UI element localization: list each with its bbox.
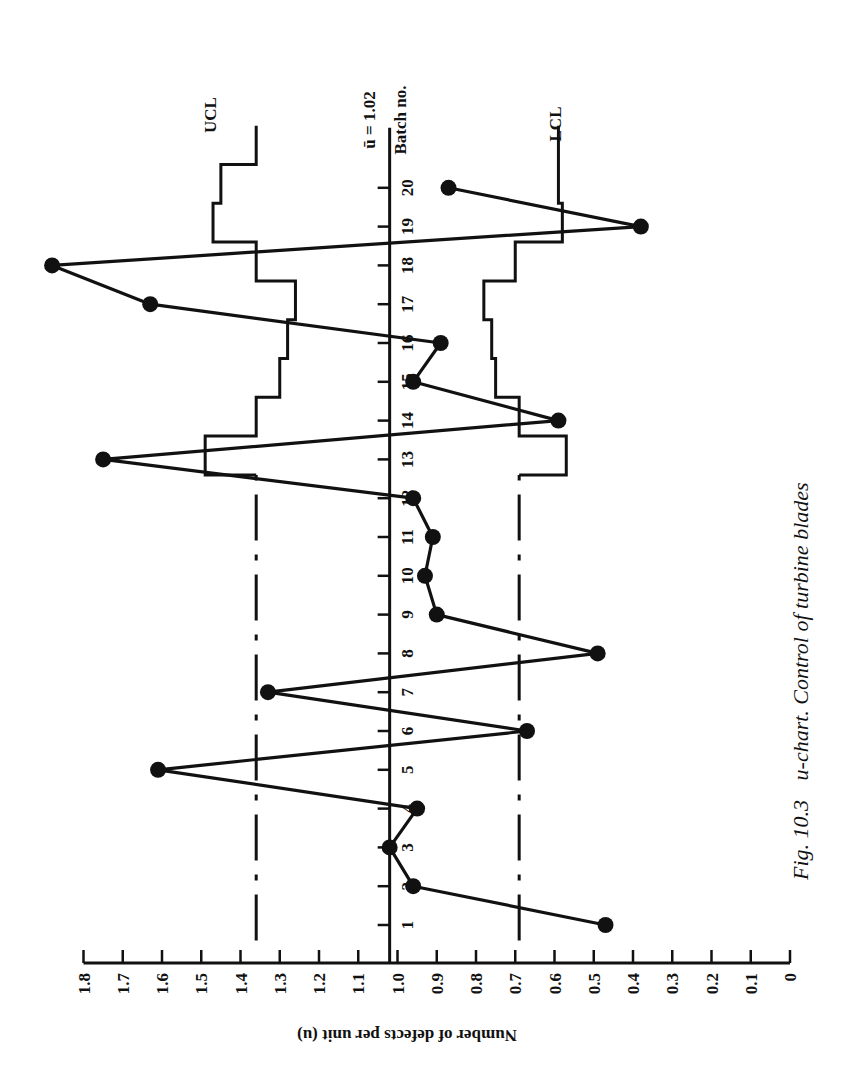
- centerline-label: ū = 1.02: [360, 91, 379, 148]
- value-tick-label: 1.1: [349, 973, 368, 994]
- batch-axis-title: Batch no.: [391, 86, 410, 155]
- data-point: [382, 839, 398, 855]
- data-point: [598, 917, 614, 933]
- u-series-line: [52, 188, 641, 925]
- batch-tick-label: 13: [398, 451, 417, 468]
- data-point: [429, 607, 445, 623]
- figure-title: u-chart. Control of turbine blades: [788, 482, 813, 780]
- value-tick-label: 1.0: [389, 973, 408, 994]
- batch-tick-label: 7: [398, 687, 417, 696]
- value-tick-label: 1.5: [192, 973, 211, 994]
- data-point: [260, 684, 276, 700]
- data-point: [409, 801, 425, 817]
- value-axis: 00.10.20.30.40.50.60.70.80.91.01.11.21.3…: [75, 950, 801, 994]
- batch-tick-label: 6: [398, 727, 417, 736]
- value-tick-label: 1.4: [232, 973, 251, 995]
- figure-label: Fig. 10.3: [788, 800, 813, 881]
- batch-tick-label: 3: [398, 843, 417, 852]
- value-tick-label: 0.6: [546, 973, 565, 994]
- figure-caption: Fig. 10.3 u-chart. Control of turbine bl…: [788, 482, 813, 881]
- data-point: [95, 451, 111, 467]
- data-point: [433, 335, 449, 351]
- data-point: [441, 180, 457, 196]
- value-tick-label: 0.2: [703, 973, 722, 994]
- data-point: [425, 529, 441, 545]
- data-point: [44, 257, 60, 273]
- batch-tick-label: 14: [398, 412, 417, 430]
- batch-tick-label: 10: [398, 567, 417, 584]
- value-tick-label: 0.7: [506, 973, 525, 995]
- ucl-step-line: [205, 126, 295, 475]
- u-chart: 00.10.20.30.40.50.60.70.80.91.01.11.21.3…: [0, 0, 859, 1090]
- batch-tick-label: 9: [398, 610, 417, 619]
- batch-tick-label: 20: [398, 179, 417, 196]
- batch-tick-label: 1: [398, 921, 417, 930]
- value-tick-label: 1.2: [310, 973, 329, 994]
- value-tick-label: 0.3: [663, 973, 682, 994]
- svg-text:Fig. 10.3 u-chart. Contr: Fig. 10.3 u-chart. Control of turbine bl…: [788, 482, 813, 881]
- data-point: [417, 568, 433, 584]
- value-tick-label: 1.6: [153, 973, 172, 994]
- data-point: [519, 723, 535, 739]
- value-tick-label: 1.3: [271, 973, 290, 994]
- data-point: [150, 762, 166, 778]
- batch-tick-label: 8: [398, 649, 417, 658]
- lcl-label: LCL: [546, 107, 565, 142]
- data-series: [44, 180, 649, 933]
- value-tick-label: 1.8: [75, 973, 94, 994]
- data-point: [590, 645, 606, 661]
- batch-tick-label: 18: [398, 257, 417, 274]
- batch-tick-label: 11: [398, 529, 417, 545]
- control-limits: [205, 126, 566, 941]
- data-point: [405, 490, 421, 506]
- value-tick-label: 0.9: [428, 973, 447, 994]
- data-point: [550, 413, 566, 429]
- batch-tick-label: 5: [398, 766, 417, 775]
- data-point: [633, 219, 649, 235]
- value-tick-label: 0.5: [585, 973, 604, 994]
- value-tick-label: 0.1: [742, 973, 761, 994]
- data-point: [405, 374, 421, 390]
- data-point: [142, 296, 158, 312]
- value-tick-label: 0.8: [467, 973, 486, 994]
- batch-tick-label: 19: [398, 218, 417, 235]
- batch-tick-label: 17: [398, 295, 417, 313]
- value-tick-label: 0.4: [624, 973, 643, 995]
- value-tick-label: 1.7: [114, 973, 133, 995]
- ucl-label: UCL: [201, 97, 220, 133]
- value-axis-title: Number of defects per unit (u): [297, 1026, 517, 1045]
- value-tick-label: 0: [781, 973, 800, 982]
- data-point: [405, 878, 421, 894]
